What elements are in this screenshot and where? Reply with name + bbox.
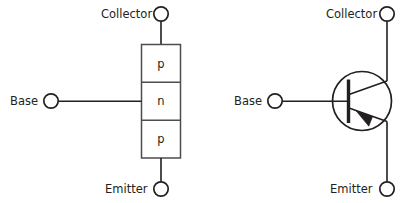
transistor-collector-slant-lead [349,81,387,95]
left-layer-label-p-top: p [157,57,164,71]
left-base-label: Base [10,94,38,108]
left-collector-terminal-node [154,7,168,21]
right-collector-terminal-node [380,7,394,21]
right-base-label: Base [234,94,262,108]
left-diagram-group: Collector p n p Base Emitter [10,7,181,196]
left-emitter-terminal-node [154,182,168,196]
right-diagram-group: Collector Base Emitter [234,7,394,196]
left-layer-label-n-middle: n [157,94,164,108]
left-emitter-label: Emitter [105,182,148,196]
right-collector-label: Collector [326,7,377,21]
left-layer-label-p-bottom: p [157,132,164,146]
right-emitter-terminal-node [380,182,394,196]
left-collector-label: Collector [101,7,152,21]
right-base-terminal-node [268,94,282,108]
right-emitter-label: Emitter [330,182,373,196]
figure-canvas: Collector p n p Base Emitter Collector [0,0,405,203]
left-base-terminal-node [44,94,58,108]
